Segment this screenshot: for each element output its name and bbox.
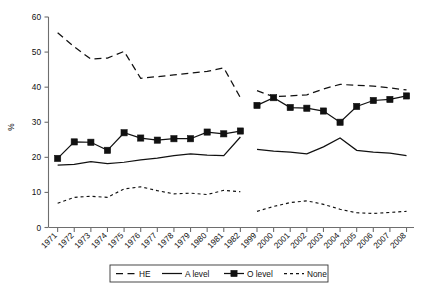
y-tick-label: 10 bbox=[32, 187, 42, 197]
series-line-he bbox=[257, 84, 407, 96]
data-point-marker bbox=[71, 139, 77, 145]
x-tick-label: 1971 bbox=[39, 230, 59, 250]
x-axis-tick-labels: 1971197219731974197519761977197819791980… bbox=[39, 230, 408, 250]
data-point-marker bbox=[304, 105, 310, 111]
x-tick-label: 2003 bbox=[305, 230, 325, 250]
chart-container: 0102030405060 % 197119721973197419751976… bbox=[0, 0, 429, 295]
data-point-marker bbox=[320, 108, 326, 114]
legend-label-a-level: A level bbox=[185, 269, 210, 279]
x-tick-label: 2006 bbox=[355, 230, 375, 250]
y-axis-ticks bbox=[45, 17, 49, 228]
x-tick-label: 2008 bbox=[388, 230, 408, 250]
data-point-marker bbox=[154, 137, 160, 143]
legend-label-none: None bbox=[307, 269, 327, 279]
series-line-none bbox=[257, 201, 407, 214]
x-tick-label: 1981 bbox=[205, 230, 225, 250]
data-point-marker bbox=[104, 147, 110, 153]
x-tick-label: 1979 bbox=[172, 230, 192, 250]
x-tick-label: 1975 bbox=[105, 230, 125, 250]
data-point-marker bbox=[187, 136, 193, 142]
chart-legend: HEA levelO levelNone bbox=[110, 265, 328, 282]
x-tick-label: 1973 bbox=[72, 230, 92, 250]
data-point-marker bbox=[254, 102, 260, 108]
x-tick-label: 1976 bbox=[122, 230, 142, 250]
series-line-a-level bbox=[58, 137, 241, 165]
data-point-marker bbox=[271, 95, 277, 101]
plot-series-group bbox=[55, 33, 410, 214]
x-tick-label: 2002 bbox=[288, 230, 308, 250]
x-tick-label: 1977 bbox=[139, 230, 159, 250]
x-tick-label: 1980 bbox=[188, 230, 208, 250]
y-tick-label: 50 bbox=[32, 47, 42, 57]
data-point-marker bbox=[138, 135, 144, 141]
y-tick-label: 20 bbox=[32, 152, 42, 162]
y-tick-label: 0 bbox=[36, 223, 41, 233]
series-line-o-level bbox=[58, 131, 241, 158]
data-point-marker bbox=[287, 104, 293, 110]
data-point-marker bbox=[88, 139, 94, 145]
x-tick-label: 2005 bbox=[338, 230, 358, 250]
series-line-none bbox=[58, 187, 241, 203]
x-tick-label: 1999 bbox=[238, 230, 258, 250]
data-point-marker bbox=[337, 119, 343, 125]
x-tick-label: 2000 bbox=[255, 230, 275, 250]
legend-label-he: HE bbox=[139, 269, 151, 279]
data-point-marker bbox=[204, 129, 210, 135]
series-line-a-level bbox=[257, 138, 407, 156]
x-axis-ticks bbox=[58, 228, 407, 233]
y-tick-label: 60 bbox=[32, 12, 42, 22]
series-line-he bbox=[58, 33, 241, 98]
data-point-marker bbox=[370, 97, 376, 103]
x-tick-label: 2001 bbox=[272, 230, 292, 250]
y-tick-label: 40 bbox=[32, 82, 42, 92]
x-tick-label: 1978 bbox=[155, 230, 175, 250]
series-line-o-level bbox=[257, 96, 407, 122]
data-point-marker bbox=[221, 131, 227, 137]
data-point-marker bbox=[121, 130, 127, 136]
data-point-marker bbox=[237, 128, 243, 134]
x-tick-label: 2004 bbox=[321, 230, 341, 250]
y-axis-title: % bbox=[6, 123, 16, 131]
y-axis-tick-labels: 0102030405060 bbox=[32, 12, 42, 233]
data-point-marker bbox=[403, 93, 409, 99]
data-point-marker bbox=[171, 136, 177, 142]
data-point-marker bbox=[354, 103, 360, 109]
x-tick-label: 1972 bbox=[56, 230, 76, 250]
data-point-marker bbox=[55, 155, 61, 161]
x-tick-label: 1974 bbox=[89, 230, 109, 250]
line-chart-svg: 0102030405060 % 197119721973197419751976… bbox=[0, 0, 429, 295]
y-tick-label: 30 bbox=[32, 117, 42, 127]
data-point-marker bbox=[387, 96, 393, 102]
x-tick-label: 2007 bbox=[371, 230, 391, 250]
x-tick-label: 1982 bbox=[222, 230, 242, 250]
legend-marker bbox=[231, 270, 237, 276]
legend-label-o-level: O level bbox=[247, 269, 273, 279]
